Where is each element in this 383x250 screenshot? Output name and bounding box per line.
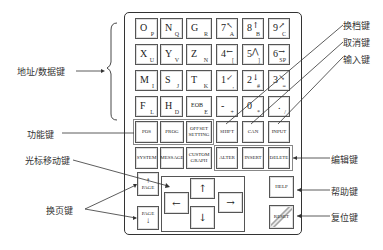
label-input-key: 输入键 <box>343 53 370 66</box>
label-help-key: 帮助键 <box>331 185 358 198</box>
label-page-keys: 换页键 <box>46 204 73 217</box>
label-reset-key: 复位键 <box>331 211 358 224</box>
label-shift-key: 换档键 <box>343 19 370 32</box>
label-address-data-keys: 地址/数据键 <box>17 65 65 78</box>
label-function-keys: 功能键 <box>27 128 54 141</box>
label-cancel-key: 取消键 <box>343 36 370 49</box>
label-edit-keys: 编辑键 <box>331 153 358 166</box>
label-cursor-keys: 光标移动键 <box>25 154 70 167</box>
